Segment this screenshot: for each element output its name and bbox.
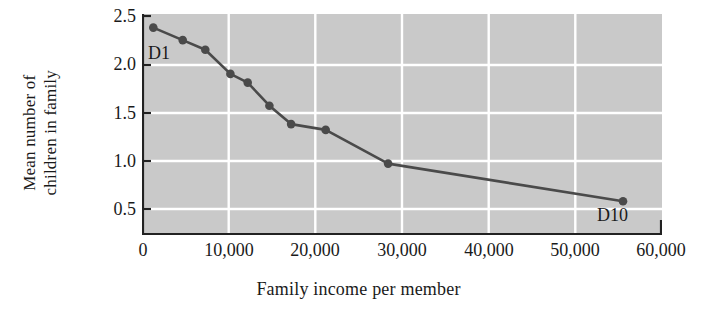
data-point-3: [201, 46, 210, 55]
y-tick-label-2.0: 2.0: [80, 55, 136, 73]
data-line: [153, 28, 623, 202]
x-axis-title: Family income per member: [0, 279, 717, 300]
y-axis-title: Mean number of children in family: [20, 13, 61, 253]
data-point-7: [287, 120, 296, 129]
data-point-6: [265, 101, 274, 110]
x-tick-label-10000: 10,000: [204, 241, 254, 259]
data-point-1: [149, 23, 158, 32]
data-point-9: [384, 159, 393, 168]
annotation-d10: D10: [597, 206, 628, 224]
x-axis-tick-labels: 0 10,000 20,000 30,000 40,000 50,000 60,…: [0, 241, 717, 267]
x-tick-label-50000: 50,000: [550, 241, 600, 259]
x-tick-label-20000: 20,000: [290, 241, 340, 259]
y-axis-title-line-2: children in family: [41, 13, 62, 253]
y-tick-label-2.5: 2.5: [80, 7, 136, 25]
y-tick-label-1.0: 1.0: [80, 152, 136, 170]
chart-figure: Mean number of children in family 2.5 2.…: [0, 0, 717, 316]
y-tick-label-0.5: 0.5: [80, 200, 136, 218]
y-axis-tick-labels: 2.5 2.0 1.5 1.0 0.5: [78, 0, 136, 316]
plot-area: D1 D10: [142, 14, 662, 235]
x-tick-label-0: 0: [139, 241, 148, 259]
y-axis-title-line-1: Mean number of: [20, 13, 41, 253]
annotation-d1: D1: [148, 44, 170, 62]
y-tick-label-1.5: 1.5: [80, 104, 136, 122]
plot-svg: [142, 14, 662, 235]
grid-vertical: [229, 14, 576, 235]
x-tick-label-60000: 60,000: [636, 241, 686, 259]
data-point-4: [226, 70, 235, 79]
data-point-8: [321, 126, 330, 135]
data-markers: [149, 23, 627, 205]
x-tick-label-30000: 30,000: [377, 241, 427, 259]
x-tick-label-40000: 40,000: [464, 241, 514, 259]
data-point-2: [178, 36, 187, 45]
data-point-5: [243, 78, 252, 87]
